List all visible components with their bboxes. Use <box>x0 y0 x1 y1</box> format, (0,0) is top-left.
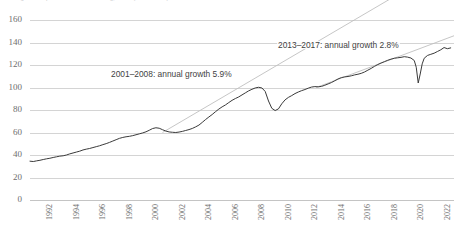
x-tick-label-2004: 2004 <box>205 204 213 220</box>
x-tick-label-2016: 2016 <box>364 204 372 220</box>
x-tick-label-2010: 2010 <box>285 204 293 220</box>
x-tick-label-1992: 1992 <box>46 204 54 220</box>
x-tick-label-2014: 2014 <box>338 204 346 220</box>
y-tick-label-80: 80 <box>0 105 22 114</box>
x-tick-label-2012: 2012 <box>311 204 319 220</box>
y-tick-label-20: 20 <box>0 173 22 182</box>
series-index <box>30 48 451 162</box>
x-tick-label-1994: 1994 <box>73 204 81 220</box>
y-tick-label-120: 120 <box>0 60 22 69</box>
growth-annotation-2001-2008: 2001–2008: annual growth 5.9% <box>110 70 233 78</box>
growth-annotation-2013-2017: 2013–2017: annual growth 2.8% <box>277 41 400 49</box>
x-tick-label-1998: 1998 <box>126 204 134 220</box>
x-tick-label-2002: 2002 <box>179 204 187 220</box>
y-tick-label-100: 100 <box>0 83 22 92</box>
chart-title: Real gross output of US manufacturing, i… <box>6 0 169 1</box>
x-tick-label-2020: 2020 <box>417 204 425 220</box>
y-tick-label-140: 140 <box>0 38 22 47</box>
y-tick-label-60: 60 <box>0 128 22 137</box>
x-tick-label-2006: 2006 <box>232 204 240 220</box>
y-tick-label-40: 40 <box>0 150 22 159</box>
x-tick-label-2000: 2000 <box>152 204 160 220</box>
y-tick-label-160: 160 <box>0 15 22 24</box>
x-tick-label-1996: 1996 <box>99 204 107 220</box>
y-tick-label-0: 0 <box>0 195 22 204</box>
x-tick-label-2008: 2008 <box>258 204 266 220</box>
x-tick-label-2022: 2022 <box>444 204 452 220</box>
chart-container: Real gross output of US manufacturing, i… <box>0 0 458 241</box>
gridline-0 <box>30 200 454 201</box>
x-tick-label-2018: 2018 <box>391 204 399 220</box>
